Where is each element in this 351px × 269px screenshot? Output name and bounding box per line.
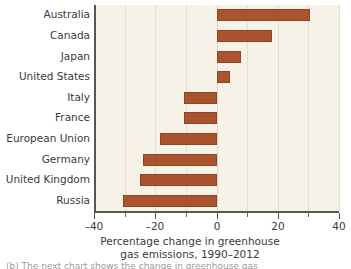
x-tick-label: 40	[332, 220, 345, 232]
x-tick-minor	[125, 213, 126, 217]
y-axis-label: United Kingdom	[0, 174, 90, 185]
x-tick-label: –40	[85, 220, 104, 232]
x-tick-minor	[186, 213, 187, 217]
x-tick-label: 0	[214, 220, 221, 232]
bar	[217, 71, 231, 83]
x-axis-title-line2: gas emissions, 1990–2012	[60, 248, 320, 261]
x-tick-label: –20	[146, 220, 165, 232]
y-axis-label: Canada	[0, 30, 90, 41]
x-axis-title: Percentage change in greenhouse gas emis…	[60, 235, 320, 260]
x-tick-major	[278, 213, 279, 219]
x-tick-major	[155, 213, 156, 219]
x-tick-minor	[308, 213, 309, 217]
x-tick-major	[94, 213, 95, 219]
bar	[217, 9, 310, 21]
x-tick-major	[217, 213, 218, 219]
bar	[123, 195, 216, 207]
x-tick-major	[339, 213, 340, 219]
y-axis-line	[94, 5, 96, 211]
bar	[143, 154, 217, 166]
bar	[217, 30, 272, 42]
y-axis-label: France	[0, 112, 90, 123]
y-axis-label: United States	[0, 71, 90, 82]
bar	[217, 51, 242, 63]
y-axis-label: Germany	[0, 154, 90, 165]
chart-figure: AustraliaCanadaJapanUnited StatesItalyFr…	[0, 0, 351, 269]
y-axis-label: Russia	[0, 195, 90, 206]
x-axis-title-line1: Percentage change in greenhouse	[60, 235, 320, 248]
gridline	[278, 5, 279, 211]
x-tick-label: 20	[271, 220, 284, 232]
y-axis-category-labels: AustraliaCanadaJapanUnited StatesItalyFr…	[0, 5, 90, 211]
bar	[184, 112, 216, 124]
gridline	[125, 5, 126, 211]
x-tick-minor	[247, 213, 248, 217]
y-axis-label: Italy	[0, 92, 90, 103]
gridline	[308, 5, 309, 211]
y-axis-label: Japan	[0, 51, 90, 62]
bar	[184, 92, 216, 104]
bar	[140, 174, 217, 186]
caption-sliver: (b) The next chart shows the change in g…	[6, 261, 346, 269]
y-axis-label: Australia	[0, 9, 90, 20]
gridline	[339, 5, 340, 211]
y-axis-label: European Union	[0, 133, 90, 144]
bar	[160, 133, 217, 145]
